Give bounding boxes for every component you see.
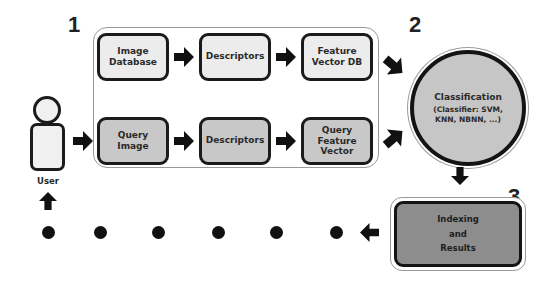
arrow-right-icon (276, 47, 296, 67)
arrow-right-icon (174, 131, 194, 151)
step-number-1: 1 (68, 14, 80, 36)
user-label: User (28, 176, 68, 186)
arrow-up-right-icon (383, 127, 405, 149)
box-label: Database (109, 57, 157, 67)
results-label: Results (440, 241, 475, 255)
image-database-box: ImageDatabase (97, 33, 169, 81)
feedback-dot (330, 226, 343, 239)
query-descriptors-box: Descriptors (199, 117, 271, 165)
feedback-dot (42, 226, 55, 239)
box-label: Image (117, 141, 148, 151)
feedback-dot (270, 226, 283, 239)
results-label: and (449, 227, 467, 241)
arrow-right-icon (73, 131, 93, 151)
indexing-results-node: Indexing and Results (390, 197, 526, 271)
box-label: Descriptors (206, 51, 265, 61)
arrow-left-icon (360, 223, 379, 242)
query-feature-vector-box: QueryFeatureVector (301, 117, 373, 165)
box-label: Image (117, 46, 148, 56)
classifier-list-line: (Classifier: SVM, (433, 105, 503, 114)
feature-vector-db-box: FeatureVector DB (301, 33, 373, 81)
arrow-up-icon (39, 192, 57, 210)
box-label: Feature (317, 46, 356, 56)
step-number-2: 2 (409, 14, 421, 36)
user-head-icon (33, 96, 61, 124)
classification-detail: (Classifier: SVM, KNN, NBNN, ...) (433, 105, 503, 125)
box-label: Vector DB (312, 57, 362, 67)
feedback-dot (152, 226, 165, 239)
box-label: Descriptors (206, 135, 265, 145)
arrow-down-icon (451, 167, 469, 185)
feedback-dot (212, 226, 225, 239)
database-descriptors-box: Descriptors (199, 33, 271, 81)
arrow-down-right-icon (383, 55, 405, 77)
query-image-box: QueryImage (97, 117, 169, 165)
results-label: Indexing (437, 212, 479, 226)
classification-node: Classification (Classifier: SVM, KNN, NB… (410, 50, 526, 166)
classifier-list-line: KNN, NBNN, ...) (435, 115, 501, 124)
arrow-right-icon (174, 47, 194, 67)
arrow-right-icon (276, 131, 296, 151)
feedback-dot (94, 226, 107, 239)
classification-title: Classification (434, 92, 502, 102)
box-label: Query (322, 125, 352, 135)
box-label: Query (118, 130, 148, 140)
user-body-icon (30, 123, 65, 171)
box-label: Vector (321, 146, 354, 156)
box-label: Feature (317, 136, 356, 146)
